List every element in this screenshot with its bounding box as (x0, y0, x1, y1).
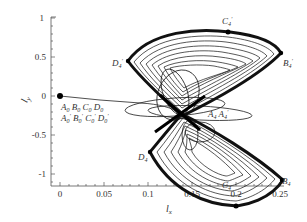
label-c4p: C4′ (222, 16, 233, 27)
phase-plot: 1 0.5 0 -0.5 -1 0 0.05 0.1 0.15 0.2 0.25… (0, 0, 307, 222)
point-c4 (234, 204, 239, 209)
lower-lobe (150, 114, 283, 206)
label-a4: A4 A4′ (207, 109, 229, 120)
y-tick-0: 0 (42, 91, 47, 101)
start-point (57, 93, 63, 99)
label-b4: B4 (282, 176, 291, 187)
upper-lobe (128, 30, 281, 116)
x-tick-0.2: 0.2 (230, 189, 241, 199)
y-tick-1: 1 (40, 13, 45, 23)
label-start-1: A0 B0 C0 D0 (60, 102, 103, 113)
label-d4p: D4′ (111, 58, 124, 69)
x-tick-0.05: 0.05 (96, 189, 112, 199)
point-c4p (226, 30, 231, 35)
y-axis-label: ly (19, 94, 34, 105)
y-tick-neg1: -1 (39, 169, 47, 179)
x-tick-0.1: 0.1 (142, 189, 153, 199)
y-tick-0.5: 0.5 (35, 52, 47, 62)
y-tick-neg0.5: -0.5 (32, 130, 47, 140)
point-b4p (279, 51, 283, 55)
x-axis-label: lx (166, 203, 173, 216)
point-d4p (126, 59, 130, 63)
label-d4: D4 (137, 152, 148, 163)
y-ticks (51, 18, 55, 182)
point-d4 (148, 150, 152, 154)
label-start-2: A0′ B0′ C0′ D0′ (60, 113, 109, 124)
label-c4: C4 (222, 180, 231, 191)
label-b4p: B4′ (283, 58, 294, 69)
x-tick-0: 0 (58, 189, 63, 199)
